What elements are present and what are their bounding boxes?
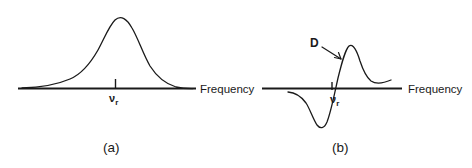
panel-b-axis-label: Frequency bbox=[408, 83, 463, 95]
panel-a-resonance-label: νr bbox=[109, 92, 118, 107]
figure-root: νr Frequency (a) νr D Fr bbox=[0, 0, 472, 168]
panel-a: νr Frequency (a) bbox=[18, 18, 255, 155]
panel-b-pointer-label: D bbox=[310, 36, 319, 50]
panel-b-nu-subscript: r bbox=[336, 99, 339, 108]
panel-a-axis-label: Frequency bbox=[200, 83, 255, 95]
panel-a-nu-subscript: r bbox=[115, 98, 118, 107]
panel-b-caption: (b) bbox=[332, 140, 349, 155]
panel-a-caption: (a) bbox=[103, 140, 120, 155]
panel-a-absorption-curve bbox=[22, 18, 193, 89]
figure-canvas: νr Frequency (a) νr D Fr bbox=[0, 0, 472, 168]
panel-b: νr D Frequency (b) bbox=[262, 36, 463, 155]
